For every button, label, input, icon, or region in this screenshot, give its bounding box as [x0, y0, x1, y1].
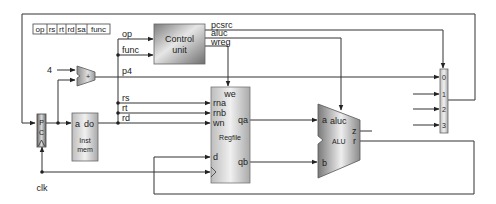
alu-aluc: aluc	[330, 116, 347, 126]
signal-wreg: wreg	[210, 37, 231, 47]
pc-source-mux: 0 1 2 3	[440, 69, 448, 133]
control-unit-label-1: Control	[165, 34, 194, 44]
field-sa: sa	[77, 25, 86, 34]
regfile-rnb: rnb	[213, 108, 226, 118]
pc-adder: +	[77, 66, 95, 86]
field-rt: rt	[59, 25, 65, 34]
alu-input-b: b	[322, 158, 327, 168]
regfile-label: Regfile	[219, 134, 241, 142]
mux-input-2: 2	[442, 106, 446, 113]
pc-label-p: P	[39, 119, 44, 126]
inst-mem-port-do: do	[84, 119, 94, 129]
control-unit-label-2: unit	[172, 45, 187, 55]
alu: a aluc z ALU r b	[318, 104, 360, 178]
mux-input-1: 1	[442, 91, 446, 98]
inst-mem-label-1: Inst	[79, 137, 90, 144]
signal-func: func	[122, 45, 140, 55]
mux-input-3: 3	[442, 122, 446, 129]
alu-r: r	[353, 136, 356, 146]
alu-label: ALU	[332, 138, 346, 145]
field-rs: rs	[49, 25, 56, 34]
register-file: we rna rnb wn qa Regfile d qb	[211, 87, 250, 183]
regfile-qa: qa	[238, 115, 248, 125]
signal-rd: rd	[122, 113, 130, 123]
regfile-qb: qb	[238, 157, 248, 167]
alu-z: z	[352, 126, 357, 136]
field-rd: rd	[67, 25, 74, 34]
mux-input-0: 0	[442, 74, 446, 81]
inst-mem-label-2: mem	[77, 146, 93, 153]
instruction-format: op rs rt rd sa func	[33, 24, 110, 34]
regfile-d: d	[213, 152, 218, 162]
signal-p4: p4	[122, 66, 132, 76]
inst-mem-port-a: a	[75, 119, 80, 129]
alu-input-a: a	[322, 115, 327, 125]
field-op: op	[36, 25, 45, 34]
adder-plus-symbol: +	[86, 73, 90, 80]
instruction-memory: a do Inst mem	[72, 113, 98, 161]
clock-label: clk	[37, 183, 48, 193]
regfile-wn: wn	[212, 118, 225, 128]
signal-op: op	[122, 29, 132, 39]
regfile-rna: rna	[213, 98, 226, 108]
pc-register: P C	[37, 114, 46, 147]
cpu-datapath-diagram: op rs rt rd sa func Control unit op func…	[0, 0, 496, 204]
control-unit: Control unit	[154, 24, 205, 64]
signal-rs: rs	[122, 93, 130, 103]
field-func: func	[91, 25, 106, 34]
signal-rt: rt	[122, 103, 128, 113]
constant-four: 4	[47, 65, 52, 75]
pc-label-c: C	[39, 129, 44, 136]
